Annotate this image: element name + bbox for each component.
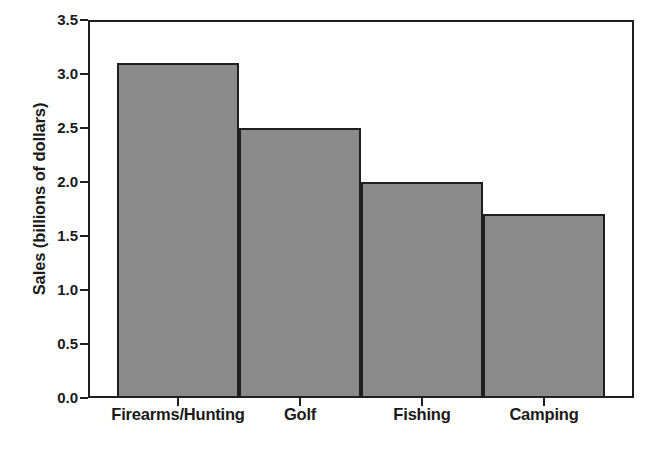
bar-fishing [361, 182, 483, 398]
bars-layer [88, 20, 634, 398]
bar-chart-figure: Sales (billions of dollars) 0.00.51.01.5… [0, 0, 658, 451]
bar-golf [239, 128, 361, 398]
y-axis-tick-mark [80, 397, 88, 399]
y-axis-tick-label: 3.0 [34, 66, 78, 81]
y-axis-tick-mark [80, 343, 88, 345]
bar-firearms-hunting [117, 63, 239, 398]
y-axis-tick-label: 1.0 [34, 282, 78, 297]
y-axis-tick-label: 0.0 [34, 390, 78, 405]
x-axis-tick-label: Fishing [393, 405, 450, 424]
y-axis-tick-label: 2.5 [34, 120, 78, 135]
x-axis-tick-label: Camping [509, 405, 578, 424]
y-axis-tick-mark [80, 127, 88, 129]
x-axis-tick-label: Firearms/Hunting [111, 405, 244, 424]
y-axis-tick-labels: 0.00.51.01.52.02.53.03.5 [18, 0, 78, 451]
y-axis-tick-mark [80, 235, 88, 237]
y-axis-tick-label: 2.0 [34, 174, 78, 189]
y-axis-tick-mark [80, 289, 88, 291]
y-axis-tick-label: 3.5 [34, 12, 78, 27]
y-axis-tick-mark [80, 19, 88, 21]
y-axis-tick-label: 0.5 [34, 336, 78, 351]
y-axis-tick-mark [80, 73, 88, 75]
y-axis-tick-mark [80, 181, 88, 183]
y-axis-tick-label: 1.5 [34, 228, 78, 243]
x-axis-tick-label: Golf [284, 405, 316, 424]
bar-camping [483, 214, 605, 398]
